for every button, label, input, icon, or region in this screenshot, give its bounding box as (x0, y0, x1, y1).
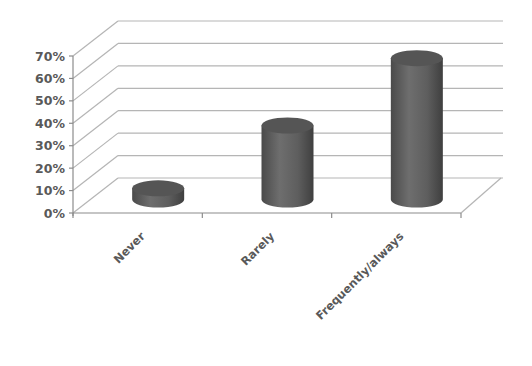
gridline-side (73, 133, 118, 168)
y-tick-label: 0% (44, 206, 66, 221)
y-tick-label: 50% (35, 93, 65, 108)
x-axis-category-labels: NeverRarelyFrequently/always (111, 229, 407, 323)
gridline-side (73, 178, 118, 213)
gridline-side (73, 88, 118, 123)
gridline-side (73, 66, 118, 101)
floor-edge (461, 178, 501, 213)
x-category-label: Frequently/always (313, 229, 407, 323)
cylinder-top (132, 180, 184, 196)
gridline-side (73, 43, 118, 78)
y-tick-label: 30% (35, 138, 65, 153)
cylinder-body (391, 58, 443, 207)
y-tick-label: 10% (35, 183, 65, 198)
cylinder-body (262, 125, 314, 207)
y-axis-tick-labels: 0%10%20%30%40%50%60%70% (35, 49, 65, 221)
y-tick-label: 60% (35, 71, 65, 86)
y-tick-label: 40% (35, 116, 65, 131)
y-tick-label: 20% (35, 161, 65, 176)
gridline-side (73, 156, 118, 191)
gridline-side (73, 111, 118, 146)
bars (132, 50, 443, 207)
x-category-label: Rarely (238, 229, 278, 269)
y-tick-label: 70% (35, 49, 65, 64)
cylinder-top (262, 117, 314, 133)
bar-never (132, 180, 184, 207)
cylinder-top (391, 50, 443, 66)
bar-rarely (262, 117, 314, 207)
gridline-side (73, 21, 118, 56)
x-category-label: Never (111, 229, 148, 266)
bar-frequently-always (391, 50, 443, 207)
bar-chart-3d: 0%10%20%30%40%50%60%70% NeverRarelyFrequ… (0, 0, 532, 366)
